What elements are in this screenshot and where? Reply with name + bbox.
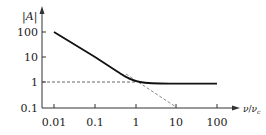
y-axis-label: |A| xyxy=(22,10,37,24)
x-axis-label: ν/νc xyxy=(243,104,261,115)
y-axis-arrow-icon xyxy=(40,6,45,14)
x-ticks xyxy=(54,104,217,108)
y-tick-100: 100 xyxy=(17,26,38,39)
x-tick-0.1: 0.1 xyxy=(86,116,104,129)
x-axis-arrow-icon xyxy=(232,106,240,111)
y-tick-0.1: 0.1 xyxy=(21,102,39,115)
chart: 100 10 1 0.1 0.01 0.1 1 10 100 |A| ν/νc xyxy=(0,0,266,135)
y-tick-10: 10 xyxy=(24,51,38,64)
y-tick-1: 1 xyxy=(31,76,38,89)
x-tick-1: 1 xyxy=(133,116,140,129)
asymptote-diagonal xyxy=(126,74,176,107)
y-ticks xyxy=(42,32,46,82)
y-tick-labels: 100 10 1 0.1 xyxy=(17,26,38,115)
x-tick-10: 10 xyxy=(169,116,183,129)
x-tick-0.01: 0.01 xyxy=(42,116,67,129)
curve-magnitude xyxy=(54,32,217,84)
x-tick-labels: 0.01 0.1 1 10 100 xyxy=(42,116,228,129)
x-tick-100: 100 xyxy=(207,116,228,129)
